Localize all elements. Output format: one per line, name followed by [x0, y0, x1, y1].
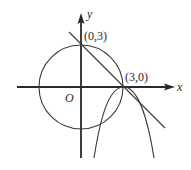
- origin-label: O: [65, 91, 74, 105]
- point-label-3-0: (3,0): [125, 70, 148, 84]
- point-label-0-3: (0,3): [84, 29, 107, 43]
- coordinate-diagram: y x O (0,3) (3,0): [0, 0, 191, 170]
- x-axis-label: x: [176, 80, 183, 94]
- line-through-points: [69, 32, 165, 128]
- y-axis-label: y: [86, 7, 93, 21]
